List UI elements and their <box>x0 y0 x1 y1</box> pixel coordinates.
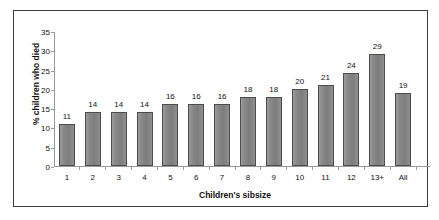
bar-value-label: 16 <box>192 93 201 101</box>
bar-value-label: 18 <box>243 86 252 94</box>
x-axis-tick-label: 7 <box>209 173 235 182</box>
bar-rect[interactable] <box>343 73 359 166</box>
bar-item[interactable]: 14 <box>80 32 106 166</box>
bar-value-label: 21 <box>321 74 330 82</box>
y-axis-tick-label: 20 <box>41 85 50 94</box>
bar-rect[interactable] <box>85 112 101 166</box>
bar-rect[interactable] <box>266 97 282 166</box>
x-axis-tick-label: 10 <box>287 173 313 182</box>
x-axis-tick-mark <box>131 166 132 170</box>
bar-rect[interactable] <box>292 89 308 166</box>
bar-rect[interactable] <box>162 104 178 166</box>
bar-item[interactable]: 14 <box>106 32 132 166</box>
bar-value-label: 14 <box>88 101 97 109</box>
bar-item[interactable]: 16 <box>157 32 183 166</box>
y-axis-tick-label: 10 <box>41 124 50 133</box>
bar-rect[interactable] <box>111 112 127 166</box>
x-axis-tick-mark <box>157 166 158 170</box>
bar-item[interactable]: 29 <box>364 32 390 166</box>
x-axis-tick-label: 11 <box>313 173 339 182</box>
x-axis-tick-mark <box>260 166 261 170</box>
bar-item[interactable]: 14 <box>132 32 158 166</box>
bar-value-label: 29 <box>373 43 382 51</box>
bar-value-label: 14 <box>140 101 149 109</box>
y-axis-tick-label: 25 <box>41 66 50 75</box>
bar-value-label: 16 <box>166 93 175 101</box>
x-axis-tick-mark <box>79 166 80 170</box>
x-axis-tick-label: 4 <box>132 173 158 182</box>
x-axis-tick-labels: 12345678910111213+All <box>54 173 416 182</box>
x-axis-tick-mark <box>364 166 365 170</box>
x-axis-tick-label: All <box>390 173 416 182</box>
x-axis-tick-mark <box>286 166 287 170</box>
bar-rect[interactable] <box>214 104 230 166</box>
bar-item[interactable]: 20 <box>287 32 313 166</box>
y-axis-tick-label: 30 <box>41 47 50 56</box>
y-axis-tick-mark <box>51 167 54 168</box>
bar-rect[interactable] <box>188 104 204 166</box>
x-axis-tick-label: 5 <box>157 173 183 182</box>
bar-item[interactable]: 16 <box>209 32 235 166</box>
bar-item[interactable]: 18 <box>235 32 261 166</box>
bar-rect[interactable] <box>137 112 153 166</box>
bar-item[interactable]: 16 <box>183 32 209 166</box>
y-axis-tick-label: 35 <box>41 28 50 37</box>
bar-value-label: 24 <box>347 62 356 70</box>
x-axis-tick-label: 12 <box>338 173 364 182</box>
x-axis-tick-label: 9 <box>261 173 287 182</box>
bar-value-label: 11 <box>63 113 71 121</box>
bar-rect[interactable] <box>240 97 256 166</box>
plot-area: 05101520253035 1114141416161618182021242… <box>54 32 416 167</box>
y-axis-title: % children who died <box>31 24 41 144</box>
x-axis-tick-mark <box>183 166 184 170</box>
bar-rect[interactable] <box>59 124 75 166</box>
x-axis-tick-mark <box>105 166 106 170</box>
bar-value-label: 14 <box>114 101 123 109</box>
bar-value-label: 20 <box>295 78 304 86</box>
x-axis-tick-label: 13+ <box>364 173 390 182</box>
x-axis-tick-label: 1 <box>54 173 80 182</box>
x-axis-tick-label: 2 <box>80 173 106 182</box>
y-axis-tick-label: 15 <box>41 105 50 114</box>
bar-rect[interactable] <box>395 93 411 166</box>
x-axis-tick-label: 8 <box>235 173 261 182</box>
bar-item[interactable]: 24 <box>338 32 364 166</box>
bar-value-label: 19 <box>399 82 408 90</box>
x-axis-tick-mark <box>390 166 391 170</box>
x-axis-tick-mark <box>312 166 313 170</box>
x-axis-tick-mark <box>235 166 236 170</box>
bar-value-label: 16 <box>218 93 227 101</box>
x-axis-tick-label: 6 <box>183 173 209 182</box>
x-axis-tick-mark <box>416 166 417 170</box>
bar-series: 1114141416161618182021242919 <box>54 32 416 166</box>
x-axis-tick-mark <box>209 166 210 170</box>
y-axis-tick-label: 0 <box>46 163 50 172</box>
x-axis-tick-label: 3 <box>106 173 132 182</box>
bar-rect[interactable] <box>369 54 385 166</box>
bar-value-label: 18 <box>269 86 278 94</box>
x-axis-title: Children's sibsize <box>54 190 416 200</box>
bar-item[interactable]: 21 <box>313 32 339 166</box>
bar-item[interactable]: 18 <box>261 32 287 166</box>
y-axis-tick-label: 5 <box>46 143 50 152</box>
bar-item[interactable]: 11 <box>54 32 80 166</box>
bar-item[interactable]: 19 <box>390 32 416 166</box>
bar-rect[interactable] <box>318 85 334 166</box>
x-axis-tick-mark <box>338 166 339 170</box>
chart-frame: % children who died 05101520253035 11141… <box>13 10 428 207</box>
